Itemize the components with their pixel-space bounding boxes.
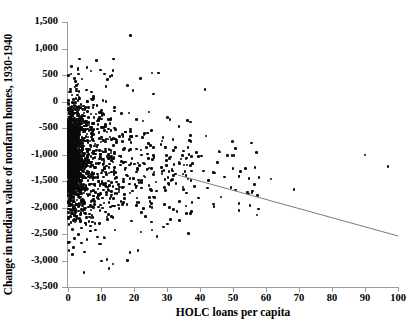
data-point	[96, 236, 99, 239]
data-point	[103, 129, 106, 132]
data-point	[149, 200, 152, 203]
data-point	[187, 146, 190, 149]
data-point	[138, 164, 141, 167]
data-point	[189, 121, 192, 124]
data-point	[72, 219, 75, 222]
data-point	[88, 193, 91, 196]
data-point	[96, 128, 99, 131]
data-point	[231, 140, 234, 143]
data-point	[71, 101, 74, 104]
data-point	[105, 173, 108, 176]
data-point	[124, 168, 127, 171]
data-point	[80, 169, 83, 172]
data-point	[120, 160, 123, 163]
data-point	[216, 161, 219, 164]
data-point	[102, 176, 105, 179]
data-point	[256, 194, 259, 197]
y-tick-label: 500	[14, 68, 58, 79]
data-point	[77, 133, 80, 136]
data-point	[188, 153, 191, 156]
data-point	[230, 186, 233, 189]
data-point	[71, 180, 74, 183]
data-point	[67, 162, 70, 165]
data-point	[169, 118, 172, 121]
data-point	[72, 160, 75, 163]
data-point	[364, 154, 367, 157]
data-point	[167, 176, 170, 179]
data-point	[99, 69, 102, 72]
data-point	[114, 229, 117, 232]
data-point	[67, 217, 70, 220]
data-point	[136, 167, 139, 170]
data-point	[81, 136, 84, 139]
data-point	[96, 104, 99, 107]
data-point	[94, 153, 97, 156]
data-point	[118, 191, 121, 194]
data-point	[68, 91, 71, 94]
data-point	[94, 222, 97, 225]
data-point	[161, 140, 164, 143]
data-point	[150, 167, 153, 170]
data-point	[95, 59, 98, 62]
data-point	[74, 157, 77, 160]
data-point	[152, 196, 155, 199]
data-point	[160, 143, 163, 146]
data-point	[168, 206, 171, 209]
data-point	[88, 220, 91, 223]
data-point	[185, 192, 188, 195]
x-tick-label: 100	[378, 292, 418, 303]
data-point	[75, 88, 78, 91]
data-point	[182, 188, 185, 191]
data-point	[191, 162, 194, 165]
data-point	[185, 212, 188, 215]
data-point	[85, 223, 88, 226]
data-point	[118, 155, 121, 158]
data-point	[77, 179, 80, 182]
data-point	[117, 204, 120, 207]
data-point	[90, 91, 93, 94]
data-point	[175, 182, 178, 185]
data-point	[223, 176, 226, 179]
data-point	[140, 154, 143, 157]
data-point	[183, 164, 186, 167]
data-point	[92, 195, 95, 198]
data-point	[182, 150, 185, 153]
data-point	[166, 116, 169, 119]
data-point	[139, 77, 142, 80]
data-point	[95, 149, 98, 152]
data-point	[97, 198, 100, 201]
data-point	[68, 166, 71, 169]
data-point	[106, 131, 109, 134]
data-point	[125, 174, 128, 177]
data-point	[120, 112, 123, 115]
data-point	[83, 115, 86, 118]
data-point	[138, 201, 141, 204]
data-point	[97, 123, 100, 126]
data-point	[83, 251, 86, 254]
data-point	[148, 111, 151, 114]
data-point	[160, 166, 163, 169]
scatter-plot-figure: Change in median value of nonfarm homes,…	[0, 0, 420, 329]
data-point	[93, 128, 96, 131]
data-point	[71, 228, 74, 231]
data-point	[189, 134, 192, 137]
data-point	[97, 206, 100, 209]
data-point	[101, 197, 104, 200]
data-point	[187, 178, 190, 181]
data-point	[112, 161, 115, 164]
data-point	[107, 118, 110, 121]
data-point	[218, 150, 221, 153]
data-point	[98, 158, 101, 161]
data-point	[113, 58, 116, 61]
data-point	[73, 214, 76, 217]
data-point	[164, 189, 167, 192]
data-point	[140, 231, 143, 234]
data-point	[132, 89, 135, 92]
data-point	[95, 113, 98, 116]
data-point	[87, 136, 90, 139]
plot-area	[68, 22, 398, 287]
data-point	[146, 132, 149, 135]
data-point	[81, 142, 84, 145]
data-point	[100, 260, 103, 263]
data-point	[104, 185, 107, 188]
